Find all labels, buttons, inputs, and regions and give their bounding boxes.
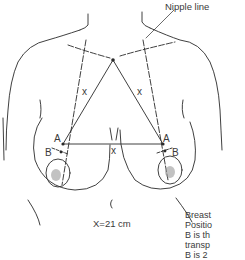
cleavage-right (116, 128, 118, 140)
nipple-line-pointer (146, 10, 174, 38)
left-axilla-mark (40, 100, 41, 118)
left-nipple-shade (51, 169, 61, 181)
right-nipple-line (143, 40, 168, 180)
a-right-label: A (163, 134, 170, 144)
left-torso-outline (3, 118, 4, 160)
point-a-left (61, 142, 64, 145)
right-axilla-mark (182, 100, 184, 118)
caption-line: Positio (185, 220, 245, 230)
neck-left-outline (80, 14, 88, 30)
caption-line: Breast (185, 210, 245, 220)
caption-line: B is th (185, 230, 245, 240)
left-shoulder-arm-outline (6, 30, 80, 150)
x-left-label: x (82, 87, 87, 97)
measurement-label: X=21 cm (93, 219, 131, 229)
neck-right-outline (142, 12, 150, 28)
triangle-left-side (63, 60, 113, 144)
caption-line: transp (185, 240, 245, 250)
right-breast-outline (120, 122, 195, 189)
right-nipple-shade (165, 166, 175, 178)
triangle-right-side (113, 60, 163, 144)
right-shoulder-arm-outline (150, 28, 222, 150)
caption: Breast Positio B is th transp B is 2 (185, 210, 245, 260)
sternal-notch-point (111, 58, 115, 62)
b-left-label: B (45, 148, 52, 158)
x-bottom-label: x (111, 146, 116, 156)
a-left-label: A (54, 134, 61, 144)
caption-line: B is 2 (185, 250, 245, 260)
point-b-left (60, 151, 63, 154)
left-b-tick (52, 148, 68, 154)
point-b-right (164, 150, 167, 153)
cleavage-left (110, 128, 112, 140)
left-flank (28, 200, 40, 225)
nipple-line-label: Nipple line (165, 2, 209, 12)
right-clavicle (120, 42, 175, 56)
left-nipple-line (62, 40, 86, 185)
x-right-label: x (137, 87, 142, 97)
b-right-label: B (172, 148, 179, 158)
left-clavicle (68, 45, 110, 58)
navel (111, 200, 113, 208)
